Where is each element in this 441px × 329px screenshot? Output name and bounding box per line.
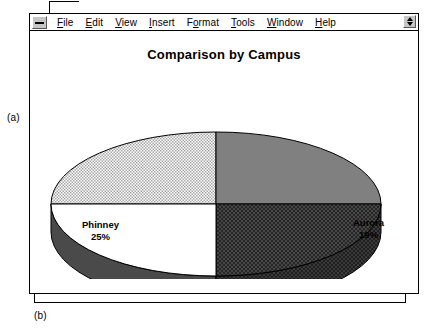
pie-label-phinney-percent: 25% [82, 231, 119, 243]
panel-a-bracket-top [49, 1, 79, 2]
minimize-box-icon[interactable] [32, 16, 47, 29]
menu-item-tools[interactable]: Tools [225, 15, 261, 30]
pie-slice-phinney[interactable] [51, 132, 216, 204]
menu-bar: File Edit View Insert Format Tools Windo… [30, 14, 418, 31]
chart-title: Comparison by Campus [30, 47, 418, 62]
pie-label-aurora-percent: 19% [353, 229, 384, 241]
panel-b-label: (b) [34, 310, 47, 321]
application-window: File Edit View Insert Format Tools Windo… [29, 13, 419, 294]
panel-a-label: (a) [7, 112, 20, 123]
pie-chart-svg [46, 129, 386, 279]
up-down-arrow-icon[interactable] [403, 15, 416, 28]
menu-item-format[interactable]: Format [181, 15, 225, 30]
menu-item-edit[interactable]: Edit [80, 15, 110, 30]
pie-label-phinney: Phinney 25% [82, 219, 119, 243]
pie-chart: Phinney 25% Aurora 19% Ballard 31% Eastl… [46, 129, 386, 279]
chart-canvas: Comparison by Campus [30, 31, 418, 293]
pie-label-aurora: Aurora 19% [353, 217, 384, 241]
figure-root: (a) (b) File Edit View Insert Format Too… [0, 0, 441, 329]
pie-slice-aurora[interactable] [216, 132, 381, 204]
panel-b-bracket-right [405, 294, 406, 303]
menu-item-window[interactable]: Window [261, 15, 309, 30]
pie-label-phinney-name: Phinney [82, 219, 119, 230]
pie-label-aurora-name: Aurora [353, 217, 384, 228]
panel-b-bracket-bottom [34, 302, 406, 303]
chevron-up-icon [407, 17, 413, 21]
menu-item-view[interactable]: View [109, 15, 143, 30]
menu-item-file[interactable]: File [51, 15, 80, 30]
menu-item-help[interactable]: Help [309, 15, 342, 30]
chevron-down-icon [407, 22, 413, 26]
menu-item-insert[interactable]: Insert [143, 15, 181, 30]
